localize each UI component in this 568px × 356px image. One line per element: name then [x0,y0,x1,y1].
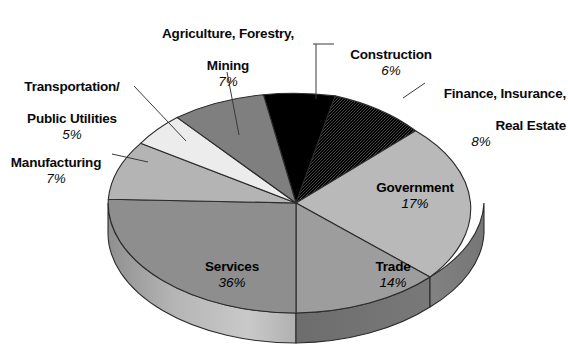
label-finance-percent: 8% [396,134,566,150]
label-finance-line2: Real Estate [495,118,566,133]
label-government-percent: 17% [358,196,472,212]
label-agriculture-line1: Agriculture, Forestry, [162,26,294,41]
label-finance-line1: Finance, Insurance, [444,86,566,101]
label-government-line1: Government [376,180,454,195]
label-trade-percent: 14% [354,275,432,291]
label-construction-line1: Construction [350,47,432,62]
label-services-percent: 36% [184,275,280,291]
label-agriculture-percent: 7% [130,74,326,90]
label-transportation-line2: Public Utilities [27,111,117,126]
label-agriculture-line2: Mining [207,58,249,73]
label-government: Government 17% [358,164,472,228]
label-finance-insurance-real-estate: Finance, Insurance, Real Estate 8% [396,70,566,166]
label-agriculture-forestry-mining: Agriculture, Forestry, Mining 7% [130,10,326,106]
label-manufacturing-percent: 7% [4,171,108,187]
pie-chart-figure: Agriculture, Forestry, Mining 7% Constru… [0,0,568,356]
label-manufacturing-line1: Manufacturing [11,155,101,170]
label-trade: Trade 14% [354,243,432,307]
label-services-line1: Services [205,259,259,274]
label-manufacturing: Manufacturing 7% [4,139,108,203]
label-transportation-line1: Transportation/ [24,79,119,94]
label-services: Services 36% [184,243,280,307]
label-trade-line1: Trade [375,259,410,274]
